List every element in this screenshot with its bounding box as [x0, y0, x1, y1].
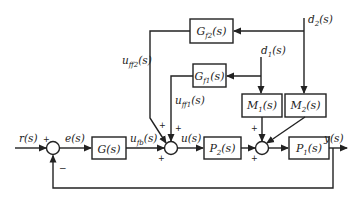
signal-label-e: e(s) [65, 132, 85, 144]
sign-sum1-plus: + [43, 135, 50, 144]
block-G-label: G(s) [97, 143, 120, 156]
signal-label-d2: d2(s) [308, 13, 333, 28]
sign-sum3-plus-p2: + [251, 154, 258, 163]
sign-sum2-plus-uff2: + [159, 121, 166, 130]
block-P2-label: P2(s) [208, 142, 235, 157]
sign-sum2-plus-uff1: + [175, 124, 182, 133]
sign-sum2-plus-ufb: + [158, 154, 165, 163]
sign-sum1-minus: − [59, 163, 67, 173]
block-Gf1-label: Gf1(s) [194, 70, 224, 85]
signal-uff2-line [150, 31, 190, 143]
block-P1-label: P1(s) [295, 142, 322, 157]
signal-label-uff2: uff2(s) [122, 54, 152, 69]
summing-junction-2 [165, 142, 178, 155]
sign-sum3-plus-m1: + [251, 124, 258, 133]
block-diagram: G(s) Gf2(s) Gf1(s) M1(s) M2(s) P2(s) P1(… [0, 0, 359, 202]
summing-junction-3 [256, 142, 269, 155]
signal-label-y: y(s) [323, 132, 344, 144]
block-Gf2-label: Gf2(s) [196, 25, 226, 40]
signal-label-uff1: uff1(s) [175, 94, 205, 109]
signal-label-ufb: ufb(s) [130, 132, 157, 147]
signal-label-r: r(s) [19, 132, 38, 144]
signal-label-u: u(s) [181, 132, 201, 144]
signal-label-d1: d1(s) [261, 44, 286, 59]
